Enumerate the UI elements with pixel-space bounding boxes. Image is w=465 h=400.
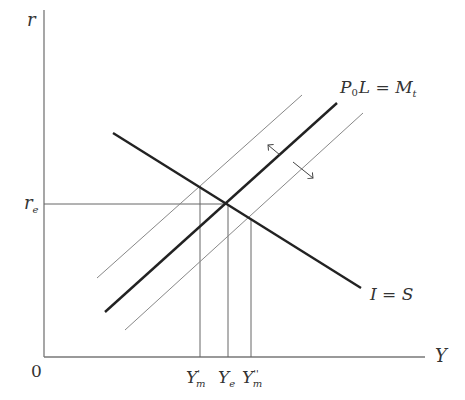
is-line-label: I = S [369, 284, 413, 304]
y-axis-label: r [27, 9, 37, 30]
shift-arrow-right-icon [293, 162, 313, 178]
is-line [113, 133, 361, 288]
y-e-label: Ye [218, 367, 235, 389]
y-m-prime-label: Y'm [186, 367, 205, 389]
shift-arrow-left-icon [268, 145, 280, 155]
origin-label: 0 [31, 361, 42, 381]
money-line [105, 103, 337, 312]
is-lm-diagram: r Y 0 re P0L = Mt I = S Y'm Ye Y''m [0, 0, 465, 400]
x-axis-label: Y [435, 345, 449, 366]
y-m-double-prime-label: Y''m [242, 367, 262, 389]
r-e-label: re [24, 192, 39, 215]
money-line-label: P0L = Mt [339, 77, 418, 99]
